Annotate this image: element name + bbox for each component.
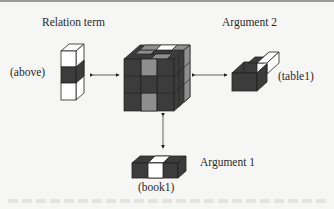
bleed-through-text [8, 199, 328, 203]
central-cube [124, 45, 190, 111]
relation-term-column [61, 44, 84, 100]
argument2-block [232, 52, 279, 91]
argument1-block [132, 156, 186, 178]
diagram-canvas [0, 0, 334, 209]
